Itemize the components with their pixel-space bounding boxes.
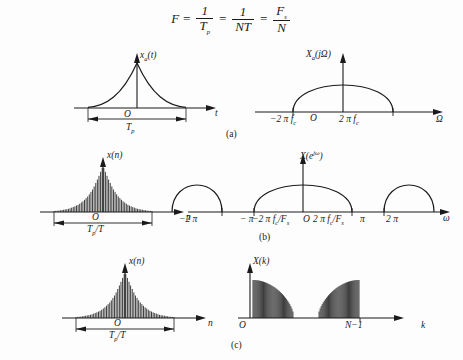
span-arrow-left — [88, 117, 98, 122]
equation-eq1: = — [182, 11, 191, 26]
panel-b-freq-xaxis: ω — [443, 213, 450, 223]
caption-b: (b) — [259, 232, 270, 242]
equation-term-1: 1 Tp — [196, 4, 212, 35]
equation-eq3: = — [259, 11, 268, 26]
equation-term-3-num: Fs — [273, 4, 289, 20]
panel-c-freq-xaxis: k — [421, 320, 425, 330]
dft-stem-series — [253, 280, 359, 318]
equation-term-2: 1 NT — [232, 5, 254, 33]
panel-a-freq-origin: O — [310, 113, 317, 123]
plot-c-time — [56, 258, 226, 338]
panel-b-freq-tick-pfc: 2 π fc/Fs — [313, 214, 344, 226]
figure-root: F = 1 Tp = 1 NT = Fs N — [0, 0, 463, 360]
panel-c-freq-origin: O — [239, 320, 246, 330]
panel-b-freq-tick-2pi: 2 π — [386, 214, 398, 224]
panel-c-time-span-label: Tp/T — [109, 330, 125, 342]
panel-c-freq-signal-label: X(k) — [253, 256, 269, 266]
panel-c-time-xaxis: n — [208, 318, 213, 328]
span-arrow-right — [142, 221, 152, 226]
equation-term-2-den: NT — [232, 19, 254, 34]
y-axis-arrow — [122, 263, 128, 273]
panel-a-time-xaxis: t — [215, 108, 218, 118]
panel-a-freq-tick-left: −2 π fc — [270, 114, 296, 126]
span-arrow-right — [164, 327, 174, 332]
spectrum-replica-right — [384, 185, 434, 212]
equation-term-1-num: 1 — [196, 4, 212, 18]
panel-b-freq-tick-mfc: −2 π fc/Fs — [252, 214, 289, 226]
caption-a: (a) — [226, 129, 237, 139]
x-axis-arrow — [196, 315, 206, 321]
panel-a-freq-signal-label: Xa(jΩ) — [306, 49, 331, 61]
equation-F: F = 1 Tp = 1 NT = Fs N — [0, 4, 463, 35]
caption-c: (c) — [231, 340, 242, 350]
panel-b-freq-tick-m2pi: −2 π — [179, 214, 197, 224]
equation-term-3: Fs N — [273, 4, 289, 35]
span-arrow-left — [76, 327, 86, 332]
equation-term-3-den: N — [273, 20, 289, 35]
x-axis-arrow — [394, 315, 404, 321]
equation-term-2-num: 1 — [232, 5, 254, 19]
span-arrow-left — [54, 221, 64, 226]
panel-c-freq — [232, 258, 432, 338]
y-axis-arrow — [100, 157, 106, 167]
panel-a-freq-xaxis: Ω — [436, 114, 443, 124]
equation-term-1-den: Tp — [196, 18, 212, 35]
equation-eq2: = — [218, 11, 227, 26]
panel-a-freq-tick-right: 2 π fc — [339, 114, 359, 126]
panel-c-time-signal-label: x(n) — [129, 256, 144, 266]
plot-c-freq — [232, 258, 432, 338]
equation-lhs: F — [171, 11, 179, 26]
panel-a-time-span-label: Tp — [126, 122, 135, 134]
panel-a-time-signal-label: xa(t) — [140, 50, 156, 62]
panel-b-time-span-label: Tp/T — [87, 224, 103, 236]
span-arrow-right — [176, 117, 186, 122]
panel-b-freq-tick-pi: π — [360, 214, 365, 224]
y-axis-arrow — [340, 53, 346, 63]
panel-b-time-origin: O — [92, 212, 99, 222]
panel-c-freq-tick-end: N−1 — [345, 320, 363, 330]
panel-b-freq-origin: O — [303, 214, 310, 224]
panel-c-time-origin: O — [114, 318, 121, 328]
panel-c-time — [56, 258, 226, 338]
panel-b-time-signal-label: x(n) — [107, 150, 122, 160]
panel-b-freq-signal-label: X(ejω) — [300, 149, 323, 161]
panel-a-time-origin: O — [124, 109, 131, 119]
